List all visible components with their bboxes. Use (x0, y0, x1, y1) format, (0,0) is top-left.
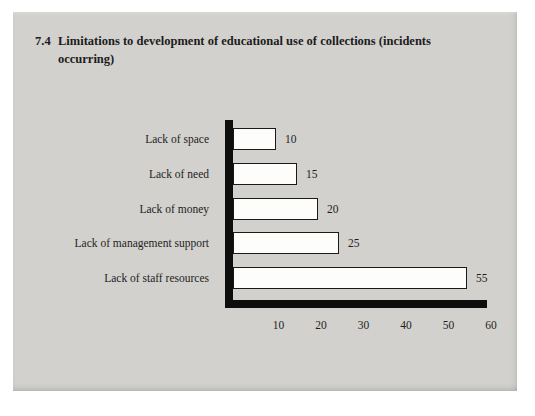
value-label: 55 (476, 267, 488, 289)
bar (233, 198, 318, 220)
category-label: Lack of space (13, 128, 209, 150)
x-axis-line (225, 300, 487, 308)
x-tick-label: 10 (264, 319, 294, 331)
y-axis-line (225, 120, 233, 308)
x-tick-label: 30 (349, 319, 379, 331)
category-label: Lack of money (13, 198, 209, 220)
category-label: Lack of staff resources (13, 267, 209, 289)
x-tick-label: 60 (476, 319, 506, 331)
x-tick-label: 50 (434, 319, 464, 331)
scanned-page: 7.4 Limitations to development of educat… (0, 0, 535, 416)
x-tick-label: 20 (306, 319, 336, 331)
bar (233, 232, 339, 254)
category-label: Lack of need (13, 163, 209, 185)
bar (233, 128, 276, 150)
bar (233, 163, 297, 185)
value-label: 20 (327, 198, 339, 220)
figure-panel: 7.4 Limitations to development of educat… (13, 12, 517, 391)
value-label: 15 (306, 163, 318, 185)
bar-chart: Lack of space10Lack of need15Lack of mon… (13, 12, 517, 391)
category-label: Lack of management support (13, 232, 209, 254)
bar (233, 267, 467, 289)
value-label: 25 (348, 232, 360, 254)
value-label: 10 (285, 128, 297, 150)
x-tick-label: 40 (391, 319, 421, 331)
